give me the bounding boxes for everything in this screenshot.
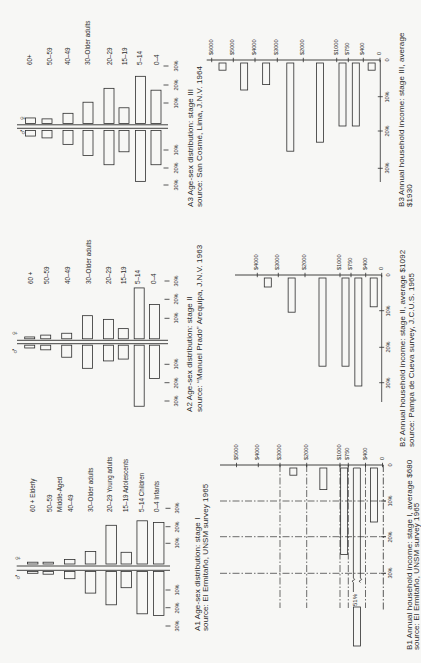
income-tick-label: 0: [380, 457, 386, 460]
income-bar: [320, 468, 327, 490]
income-tick-label: $4000: [256, 444, 262, 460]
income-tick-label: $1000: [337, 444, 343, 460]
income-tick-label: $2000: [304, 444, 310, 460]
income-bar-continued: [353, 607, 360, 646]
percent-tick-label: 10%: [388, 495, 394, 506]
chart-b1-household-income: 51%$5000$4000$3000$2000$1000$750$4000010…: [0, 0, 421, 663]
income-tick-label: $750: [346, 448, 352, 460]
income-tick-label: $3000: [277, 444, 283, 460]
percent-tick-label: 30%: [388, 568, 394, 579]
income-bar-truncated: [353, 468, 360, 578]
scanned-page-rotated: 10%20%30%10%20%30%60+50–5940–4930–Older …: [0, 0, 421, 663]
axis-break-icon: [359, 578, 362, 583]
income-tick-label: $5000: [234, 444, 240, 460]
income-bar: [290, 468, 297, 475]
income-tick-label: $400: [363, 448, 369, 460]
income-bar: [371, 468, 378, 522]
bar-value-annotation: 51%: [352, 594, 358, 606]
percent-tick-label: 20%: [388, 531, 394, 542]
axis-break-icon: [352, 578, 355, 583]
income-bar: [341, 468, 348, 554]
chart-source: source: El Ermitaño, UNSM survey 1965: [413, 503, 421, 650]
chart-plot-area: [0, 0, 421, 663]
percent-tick-label: 0: [388, 463, 394, 466]
